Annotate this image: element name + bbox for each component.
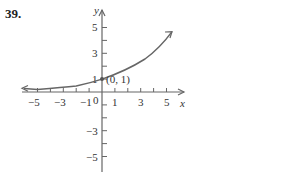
svg-text:3: 3: [138, 96, 144, 108]
axes: [22, 10, 184, 172]
svg-text:5: 5: [164, 96, 170, 108]
svg-text:0: 0: [93, 94, 99, 106]
svg-text:−1: −1: [80, 96, 92, 108]
svg-text:−3: −3: [86, 125, 98, 137]
graph: −5−3−1 0135 x 531 −3−5 y (0, 1): [0, 0, 301, 186]
svg-text:3: 3: [92, 47, 98, 59]
exponential-curve: [24, 32, 172, 90]
point-label: (0, 1): [106, 73, 130, 86]
y-axis-label: y: [93, 4, 99, 16]
x-tick-labels: −5−3−1 0135 x: [28, 94, 185, 109]
svg-text:−3: −3: [54, 96, 66, 108]
svg-text:−5: −5: [86, 151, 98, 163]
point-0-1: [100, 77, 104, 81]
svg-text:−5: −5: [28, 96, 40, 108]
x-axis-label: x: [179, 97, 185, 109]
svg-text:1: 1: [92, 73, 98, 85]
svg-text:1: 1: [112, 96, 118, 108]
svg-text:5: 5: [92, 21, 98, 33]
